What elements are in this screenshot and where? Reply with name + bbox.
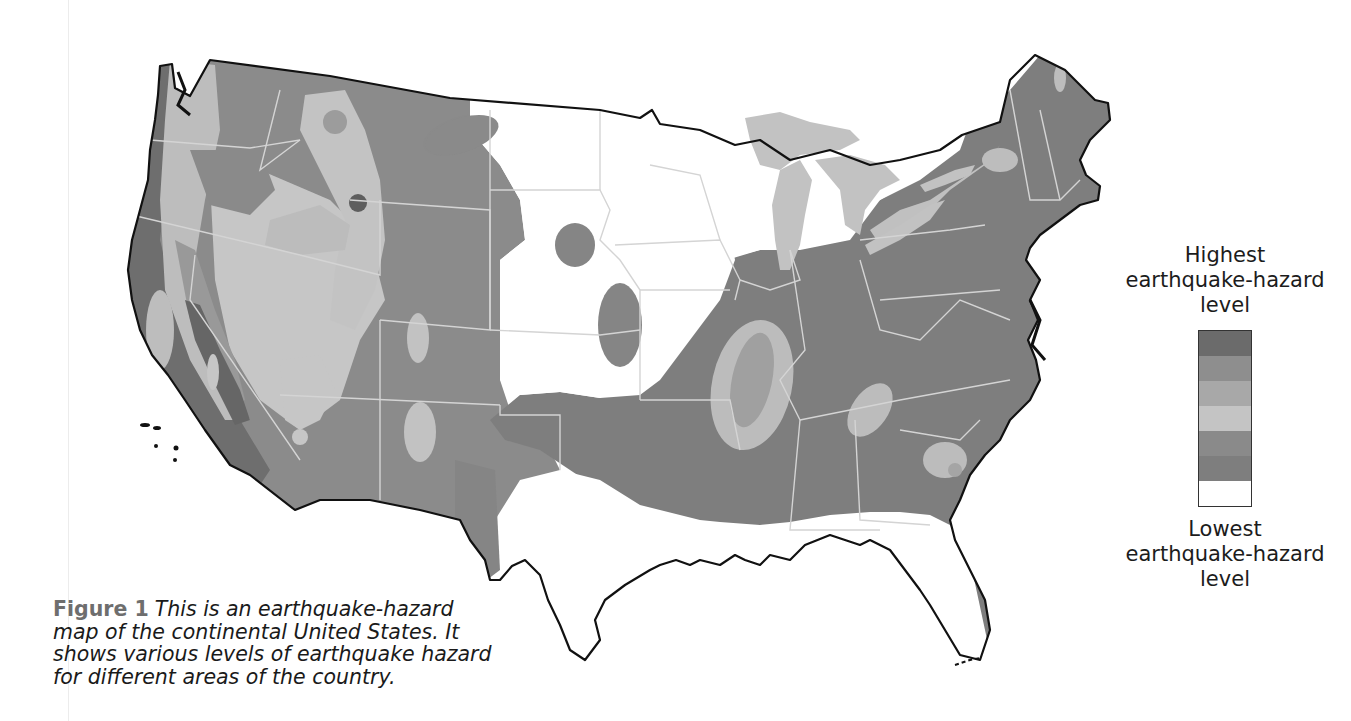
zone-socal-light (207, 354, 219, 390)
legend-band-level-4 (1199, 406, 1251, 431)
legend-lowest-line-1: Lowest (1110, 517, 1340, 542)
zone-montana-high (323, 110, 347, 134)
legend-lowest-label: Lowest earthquake-hazard level (1110, 517, 1340, 592)
zone-west-texas-spot (459, 540, 471, 556)
zone-charleston-high (948, 463, 962, 477)
map-legend: Highest earthquake-hazard level Lowest e… (1110, 243, 1340, 592)
zone-oklahoma-blob (598, 283, 642, 367)
zone-yellowstone-highest (349, 194, 367, 212)
legend-band-level-7 (1199, 331, 1251, 356)
figure-caption: Figure 1This is an earthquake-hazard map… (53, 598, 493, 688)
legend-lowest-line-2: earthquake-hazard (1110, 542, 1340, 567)
legend-band-level-2 (1199, 456, 1251, 481)
zone-new-mexico-light (404, 402, 436, 462)
legend-band-level-6 (1199, 356, 1251, 381)
zone-az-spot (292, 429, 308, 445)
legend-highest-line-1: Highest (1110, 243, 1340, 268)
legend-band-level-1 (1199, 481, 1251, 506)
zone-colorado-light (407, 313, 429, 363)
legend-color-scale (1198, 330, 1252, 507)
legend-highest-label: Highest earthquake-hazard level (1110, 243, 1340, 318)
legend-lowest-line-3: level (1110, 567, 1340, 592)
legend-highest-line-3: level (1110, 293, 1340, 318)
channel-islands (140, 423, 179, 462)
zone-south-dakota-blob (555, 223, 595, 267)
legend-band-level-5 (1199, 381, 1251, 406)
legend-highest-line-2: earthquake-hazard (1110, 268, 1340, 293)
zone-adirondack-light (982, 148, 1018, 172)
legend-band-level-3 (1199, 431, 1251, 456)
zone-coast-range-light (146, 290, 174, 370)
figure-label: Figure 1 (53, 597, 149, 621)
florida-keys (955, 658, 980, 665)
